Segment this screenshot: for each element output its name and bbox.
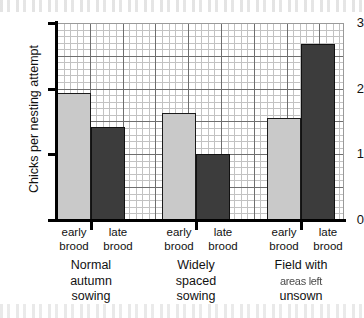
group-title-normal-line2: autumn: [70, 274, 112, 288]
label-widely-early-line1: early: [167, 226, 192, 238]
label-normal-early-line2: brood: [59, 240, 88, 252]
group-title-normal-line3: sowing: [72, 289, 111, 303]
y-tick-label-1: 1: [320, 147, 364, 160]
group-title-unsown-line3: unsown: [279, 289, 322, 303]
group-title-widely-line3: sowing: [177, 289, 216, 303]
label-unsown-late-line2: brood: [313, 240, 342, 252]
group-title-widely-line2: spaced: [176, 274, 216, 288]
y-tick-3: [48, 22, 56, 25]
y-tick-2: [48, 88, 56, 91]
y-axis-line: [55, 21, 58, 222]
label-normal-late-line2: brood: [103, 240, 132, 252]
label-normal-late: late brood: [91, 226, 145, 253]
bar-normal-early: [57, 93, 91, 220]
y-tick-label-2: 2: [320, 82, 364, 95]
group-title-normal: Normal autumn sowing: [31, 258, 151, 305]
bar-unsown-late: [301, 44, 335, 220]
label-unsown-early-line1: early: [272, 226, 297, 238]
bar-normal-late: [91, 127, 125, 220]
group-title-widely: Widely spaced sowing: [136, 258, 256, 305]
scan-artifact-top: [0, 0, 364, 12]
bar-widely-late: [196, 154, 230, 220]
label-unsown-late-line1: late: [319, 226, 338, 238]
label-normal-late-line1: late: [109, 226, 128, 238]
y-tick-label-3: 3: [320, 16, 364, 29]
label-widely-late-line2: brood: [208, 240, 237, 252]
y-axis-title: Chicks per nesting attempt: [27, 19, 41, 219]
y-tick-0: [48, 219, 56, 222]
scan-artifact-bottom: [0, 304, 364, 318]
group-title-unsown-line1: Field with: [275, 258, 328, 272]
y-tick-label-0: 0: [320, 213, 364, 226]
group-title-widely-line1: Widely: [177, 258, 215, 272]
group-title-unsown: Field with areas left unsown: [241, 258, 361, 305]
y-tick-1: [48, 153, 56, 156]
label-widely-early-line2: brood: [164, 240, 193, 252]
label-unsown-early-line2: brood: [269, 240, 298, 252]
label-widely-late: late brood: [196, 226, 250, 253]
bar-chart-figure: Chicks per nesting attempt 3 2 1 0 early…: [0, 0, 364, 318]
label-widely-late-line1: late: [214, 226, 233, 238]
group-title-unsown-line2: areas left: [241, 274, 361, 288]
bar-unsown-early: [267, 118, 301, 220]
plot-area: [57, 23, 344, 220]
label-normal-early-line1: early: [62, 226, 87, 238]
group-title-normal-line1: Normal: [71, 258, 111, 272]
label-unsown-late: late brood: [301, 226, 355, 253]
bar-widely-early: [162, 113, 196, 220]
